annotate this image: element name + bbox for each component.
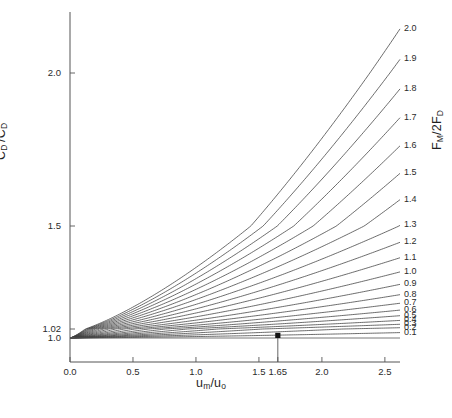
- curve-label-1-4: 1.4: [404, 194, 417, 204]
- x-tick-label-0-0: 0.0: [56, 366, 84, 377]
- curve-label-1-8: 1.8: [404, 83, 417, 93]
- y-tick-label-1-5: 1.5: [0, 220, 61, 231]
- y-axis-label: CD′/CD: [0, 123, 9, 160]
- curve-label-0-9: 0.9: [404, 278, 417, 288]
- x-tick-label-2-5: 2.5: [371, 366, 399, 377]
- curve-label-1-9: 1.9: [404, 53, 417, 63]
- marker-square: [275, 333, 280, 338]
- y-tick-label-1-02: 1.02: [0, 323, 61, 334]
- x-tick-label-0-5: 0.5: [119, 366, 147, 377]
- curve-label-1-3: 1.3: [404, 219, 417, 229]
- secondary-axis-label-text: FM/2FD: [430, 110, 444, 150]
- x-axis-label: um/uo: [196, 376, 226, 391]
- curve-label-2-0: 2.0: [404, 23, 417, 33]
- x-tick-label-1-65: 1.65: [264, 366, 292, 377]
- curve-label-1-1: 1.1: [404, 252, 417, 262]
- x-axis-label-text: um/uo: [196, 376, 226, 390]
- x-tick-label-1-0: 1.0: [182, 366, 210, 377]
- curve-label-1-5: 1.5: [404, 167, 417, 177]
- curve-label-1-0: 1.0: [404, 266, 417, 276]
- x-tick-label-2-0: 2.0: [308, 366, 336, 377]
- chart-background: [0, 0, 452, 418]
- curve-label-1-2: 1.2: [404, 236, 417, 246]
- curve-label-1-6: 1.6: [404, 140, 417, 150]
- y-axis-label-text: CD′/CD: [0, 123, 8, 160]
- y-tick-label-2-0: 2.0: [0, 67, 61, 78]
- curve-label-0-8: 0.8: [404, 289, 417, 299]
- secondary-axis-label: FM/2FD: [430, 110, 445, 150]
- chart-figure: [0, 0, 452, 418]
- curve-label-1-7: 1.7: [404, 112, 417, 122]
- curve-label-0-7: 0.7: [404, 297, 417, 307]
